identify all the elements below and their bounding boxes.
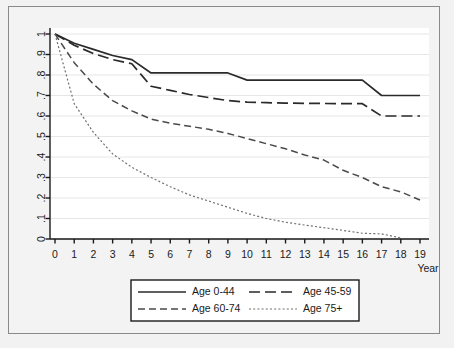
y-tick-label: .3 (35, 173, 47, 182)
x-tick-label: 4 (129, 248, 135, 260)
x-tick-label: 11 (261, 248, 272, 260)
chart-legend: Age 0-44Age 45-59Age 60-74Age 75+ (131, 280, 359, 321)
x-tick-label: 9 (225, 248, 231, 260)
y-tick-label: .1 (35, 214, 47, 223)
x-tick-label: 8 (206, 248, 212, 260)
y-tick-label: 1 (35, 31, 47, 37)
y-tick-label: 0 (35, 236, 47, 242)
x-tick-label: 16 (357, 248, 369, 260)
y-tick-label: .8 (35, 70, 47, 79)
legend-label-age-75: Age 75+ (303, 302, 342, 314)
y-tick-label: .5 (35, 132, 47, 141)
x-tick-label: 14 (318, 248, 330, 260)
x-tick-label: 1 (71, 248, 77, 260)
figure-container: 0.1.2.3.4.5.6.7.8.91 0123456789101112131… (0, 0, 454, 348)
y-tick-label: .4 (35, 152, 47, 161)
x-axis-title-label: Year (417, 262, 439, 274)
x-tick-label: 7 (187, 248, 193, 260)
x-tick-label: 2 (90, 248, 96, 260)
y-axis-tick-labels: 0.1.2.3.4.5.6.7.8.91 (35, 31, 47, 242)
legend-label-age-60-74: Age 60-74 (192, 302, 241, 314)
x-tick-label: 13 (299, 248, 311, 260)
x-tick-label: 6 (167, 248, 173, 260)
x-tick-label: 0 (52, 248, 58, 260)
plot-area-background (50, 28, 429, 239)
y-tick-label: .6 (35, 111, 47, 120)
x-tick-label: 18 (395, 248, 407, 260)
legend-label-age-0-44: Age 0-44 (192, 285, 235, 297)
x-axis-tick-labels: 012345678910111213141516171819 (52, 248, 426, 260)
y-tick-label: .9 (35, 50, 47, 59)
x-tick-label: 12 (280, 248, 292, 260)
x-tick-label: 5 (148, 248, 154, 260)
x-tick-label: 3 (110, 248, 116, 260)
x-tick-label: 17 (376, 248, 388, 260)
y-tick-label: .2 (35, 193, 47, 202)
x-axis-title: Year (417, 262, 439, 274)
legend-label-age-45-59: Age 45-59 (303, 285, 352, 297)
x-tick-label: 10 (241, 248, 253, 260)
x-tick-label: 15 (337, 248, 349, 260)
y-tick-label: .7 (35, 91, 47, 100)
x-tick-label: 19 (414, 248, 426, 260)
survival-curve-chart: 0.1.2.3.4.5.6.7.8.91 0123456789101112131… (0, 0, 454, 348)
